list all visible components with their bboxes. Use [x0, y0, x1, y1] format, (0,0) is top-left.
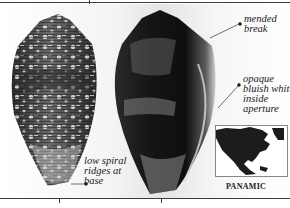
annotation-opaque-aperture: opaque bluish white inside aperture	[243, 74, 290, 114]
annotation-mended-break: mended break	[244, 14, 277, 34]
range-map	[215, 125, 288, 177]
bottom-rule-tick	[161, 198, 162, 203]
annotation-spiral-ridges: low spiral ridges at base	[84, 156, 126, 186]
top-rule	[0, 2, 290, 3]
map-north-america	[216, 126, 287, 176]
bottom-rule-tick	[59, 198, 60, 203]
right-shell	[115, 10, 216, 194]
bottom-rule	[0, 198, 290, 199]
map-caption: PANAMIC	[226, 182, 266, 191]
